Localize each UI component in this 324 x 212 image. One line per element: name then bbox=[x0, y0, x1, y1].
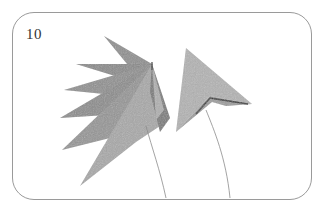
fan-star-figure bbox=[60, 36, 170, 186]
stem-left bbox=[146, 126, 166, 198]
stem-right bbox=[206, 110, 230, 198]
origami-illustration bbox=[0, 0, 324, 212]
kite-body bbox=[176, 48, 252, 132]
triangle-kite-figure bbox=[176, 48, 252, 132]
